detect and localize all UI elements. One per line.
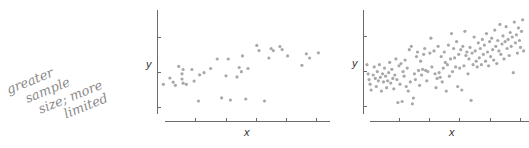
data-point [421, 68, 424, 71]
data-point [521, 18, 524, 21]
data-point [412, 96, 415, 99]
data-point [516, 52, 519, 55]
data-point [484, 60, 487, 63]
data-point [379, 76, 382, 79]
data-points [365, 18, 525, 105]
data-point [417, 69, 420, 72]
data-point [388, 61, 391, 64]
data-point [383, 67, 386, 70]
data-point [514, 41, 517, 44]
data-point [442, 67, 445, 70]
data-point [420, 73, 423, 76]
data-point [498, 23, 501, 26]
data-point [453, 56, 456, 59]
data-point [480, 63, 483, 66]
data-point [404, 59, 407, 62]
data-point [387, 71, 390, 74]
data-point [497, 49, 500, 52]
data-point [373, 65, 376, 68]
data-point [479, 47, 482, 50]
data-point [182, 68, 185, 71]
data-point [494, 45, 497, 48]
data-point [430, 65, 433, 68]
data-point [162, 83, 165, 86]
data-point [510, 45, 513, 48]
data-point [505, 25, 508, 28]
data-point [488, 40, 491, 43]
data-point [317, 51, 320, 54]
data-point [278, 45, 281, 48]
data-point [394, 57, 397, 60]
data-point [468, 46, 471, 49]
data-point [519, 46, 522, 49]
data-point [502, 57, 505, 60]
data-point [281, 48, 284, 51]
data-point [459, 48, 462, 51]
data-point [466, 72, 469, 75]
data-point [393, 73, 396, 76]
data-point [197, 99, 200, 102]
data-point [241, 54, 244, 57]
data-point [372, 73, 375, 76]
data-point [457, 53, 460, 56]
data-point [418, 84, 421, 87]
data-point [464, 54, 467, 57]
y-axis-label: y [351, 57, 359, 69]
data-point [445, 90, 448, 93]
data-point [227, 57, 230, 60]
data-point [440, 55, 443, 58]
data-point [286, 54, 289, 57]
data-point [454, 65, 457, 68]
data-point [476, 65, 479, 68]
data-point [257, 49, 260, 52]
x-axis-label: x [243, 126, 250, 138]
data-point [380, 90, 383, 93]
data-point [263, 99, 266, 102]
data-point [425, 79, 428, 82]
data-point [402, 70, 405, 73]
scatter-plot-large-sample: y x [351, 10, 529, 138]
data-point [240, 70, 243, 73]
data-point [224, 74, 227, 77]
data-point [180, 77, 183, 80]
data-point [405, 85, 408, 88]
data-point [470, 99, 473, 102]
data-point [407, 90, 410, 93]
data-point [487, 64, 490, 67]
data-point [395, 78, 398, 81]
data-point [185, 83, 188, 86]
data-point [235, 75, 238, 78]
data-point [472, 63, 475, 66]
data-point [504, 40, 507, 43]
scatter-plot-small-sample: y x [145, 10, 330, 138]
data-point [423, 47, 426, 50]
data-point [406, 67, 409, 70]
data-point [441, 80, 444, 83]
data-point [398, 83, 401, 86]
data-point [509, 31, 512, 34]
data-point [478, 56, 481, 59]
data-point [244, 97, 247, 100]
data-point [182, 82, 185, 85]
data-point [517, 26, 520, 29]
data-point [422, 53, 425, 56]
data-point [392, 87, 395, 90]
data-point [433, 72, 436, 75]
data-point [255, 44, 258, 47]
data-point [512, 71, 515, 74]
data-point [481, 38, 484, 41]
data-point [471, 52, 474, 55]
data-point [193, 80, 196, 83]
data-point [492, 59, 495, 62]
data-point [382, 80, 385, 83]
data-point [300, 64, 303, 67]
data-point [515, 33, 518, 36]
data-point [438, 71, 441, 74]
data-point [475, 60, 478, 63]
data-point [180, 72, 183, 75]
data-point [174, 84, 177, 87]
data-point [495, 62, 498, 65]
y-axis-label: y [145, 58, 153, 70]
data-point [455, 40, 458, 43]
data-point [460, 88, 463, 91]
